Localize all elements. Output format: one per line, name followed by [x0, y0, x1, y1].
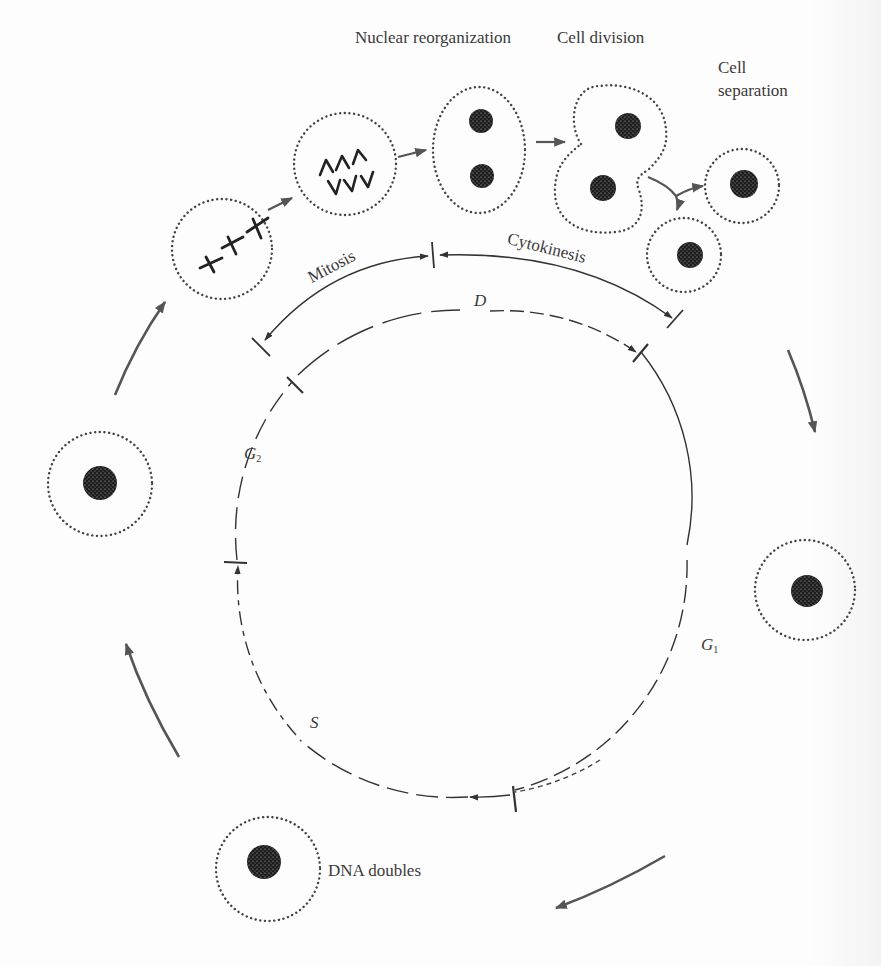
- outer-arrow-bottom-right: [556, 856, 665, 908]
- label-phase-g2: G2: [244, 445, 261, 464]
- arrow-anaphase-to-reorg: [398, 150, 426, 157]
- cell-nuclear-reorg: [433, 87, 525, 213]
- nucleus-dividing-bottom: [590, 175, 616, 201]
- nucleus-separated-right: [730, 170, 758, 198]
- tick-s-g2: [224, 562, 247, 563]
- label-phase-g1-subscript: 1: [713, 644, 718, 655]
- arrow-metaphase-to-anaphase: [268, 198, 292, 210]
- nucleus-reorg-bottom: [470, 164, 494, 188]
- cell-cycle-diagram: Nuclear reorganization Cell division Cel…: [0, 0, 881, 966]
- g1-arc-dotted: [515, 760, 600, 792]
- nuclei: [83, 109, 823, 879]
- s-arc-solid: [470, 795, 510, 797]
- cycle-circle: [236, 310, 692, 797]
- tick-mitosis-start: [252, 338, 270, 356]
- chromosomes-metaphase: [200, 218, 268, 272]
- label-phase-g2-subscript: 2: [256, 453, 261, 464]
- outer-arrow-right: [788, 350, 815, 432]
- cell-dividing: [555, 85, 666, 232]
- arrow-separation-down: [676, 196, 678, 210]
- phase-boundary-ticks: [224, 344, 648, 812]
- cell-anaphase: [294, 113, 396, 215]
- cells: [48, 85, 855, 921]
- label-phase-g1-letter: G: [701, 635, 713, 654]
- outer-arrow-bottom-left: [126, 644, 179, 757]
- label-nuclear-reorganization: Nuclear reorganization: [355, 29, 511, 46]
- tick-d-g1: [633, 344, 648, 362]
- g2-arc: [236, 382, 292, 560]
- nucleus-g1: [791, 575, 823, 607]
- label-phase-d: D: [474, 292, 486, 309]
- label-phase-g1: G1: [701, 636, 718, 655]
- diagram-canvas: [0, 0, 881, 966]
- chromosomes-anaphase: [320, 150, 373, 194]
- s-arc-dashed2: [238, 566, 296, 735]
- label-phase-s: S: [310, 714, 319, 731]
- nucleus-dna-doubles: [247, 845, 281, 879]
- label-dna-doubles: DNA doubles: [328, 862, 421, 879]
- s-arc-dashed: [300, 740, 468, 797]
- tick-mitosis-cytokinesis: [432, 242, 434, 268]
- g1-arc-solid: [641, 352, 692, 545]
- label-phase-g2-letter: G: [244, 444, 256, 463]
- tick-cytokinesis-end: [667, 310, 683, 328]
- g1-arc-dashed: [515, 560, 687, 790]
- outer-cycle-arrows: [115, 302, 815, 908]
- nucleus-separated-bottom: [677, 242, 703, 268]
- d-arc-left: [298, 310, 460, 375]
- label-cell-separation-line1: Cell: [718, 59, 746, 76]
- nucleus-reorg-top: [469, 109, 493, 133]
- outer-arrow-left: [115, 302, 165, 395]
- label-cell-division: Cell division: [557, 29, 644, 46]
- label-cell-separation-line2: separation: [718, 82, 788, 99]
- division-bracket: [252, 242, 683, 356]
- nucleus-dividing-top: [615, 113, 641, 139]
- d-arc-right: [490, 311, 636, 352]
- nucleus-g2: [83, 466, 117, 500]
- arrow-separation-right: [648, 177, 703, 196]
